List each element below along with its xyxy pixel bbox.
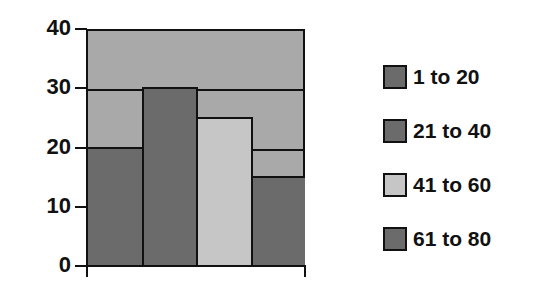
bar-1-to-20 <box>87 147 144 267</box>
legend-swatch <box>383 119 407 143</box>
y-tick <box>75 147 87 149</box>
bar-21-to-40 <box>142 87 198 266</box>
legend-label: 61 to 80 <box>413 227 491 251</box>
legend-swatch <box>383 173 407 197</box>
bar-61-to-80 <box>251 176 305 266</box>
legend-swatch <box>383 65 407 89</box>
y-tick <box>75 87 87 89</box>
legend-label: 21 to 40 <box>413 119 491 143</box>
legend-label: 41 to 60 <box>413 173 491 197</box>
legend-item: 41 to 60 <box>383 172 491 198</box>
y-tick <box>75 28 87 30</box>
x-axis <box>86 265 306 267</box>
y-tick-label: 0 <box>59 254 71 276</box>
y-tick-label: 30 <box>47 76 71 98</box>
x-tick <box>304 265 306 277</box>
legend-swatch <box>383 227 407 251</box>
legend-label: 1 to 20 <box>413 65 480 89</box>
y-tick-label: 10 <box>47 195 71 217</box>
y-tick-label: 20 <box>47 136 71 158</box>
plot-area <box>87 29 305 266</box>
y-tick-label: 40 <box>47 17 71 39</box>
y-axis <box>86 29 88 268</box>
legend-item: 1 to 20 <box>383 64 480 90</box>
legend-item: 61 to 80 <box>383 226 491 252</box>
bar-41-to-60 <box>196 117 253 266</box>
legend-item: 21 to 40 <box>383 118 491 144</box>
y-tick <box>75 206 87 208</box>
y-tick <box>75 265 87 267</box>
bar-chart: 403020100 1 to 2021 to 4041 to 6061 to 8… <box>0 0 549 295</box>
